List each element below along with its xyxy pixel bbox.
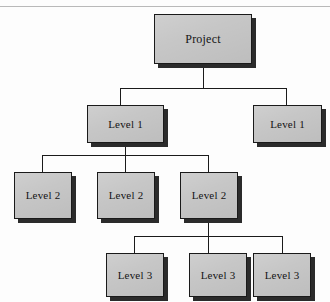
connector-l2a-drop xyxy=(42,155,43,172)
node-l3a[interactable]: Level 3 xyxy=(106,253,164,297)
connector-l1b-drop xyxy=(286,88,287,105)
connector-l2b-drop xyxy=(125,155,126,172)
node-label: Level 2 xyxy=(192,190,227,201)
connector-root-stem xyxy=(203,64,204,88)
connector-l1a-drop xyxy=(120,88,121,105)
node-root[interactable]: Project xyxy=(154,14,252,64)
node-l3b[interactable]: Level 3 xyxy=(189,253,247,297)
connector-l1-bus xyxy=(120,88,286,89)
connector-l3c-drop xyxy=(282,236,283,253)
node-label: Level 3 xyxy=(118,270,153,281)
connector-l3a-drop xyxy=(134,236,135,253)
node-label: Level 1 xyxy=(270,119,305,130)
node-label: Level 2 xyxy=(26,190,61,201)
connector-l3b-drop xyxy=(208,236,209,253)
node-l2c[interactable]: Level 2 xyxy=(180,172,238,219)
node-l2a[interactable]: Level 2 xyxy=(14,172,72,219)
node-label: Level 1 xyxy=(108,119,143,130)
node-l2b[interactable]: Level 2 xyxy=(97,172,155,219)
scan-artifact-line xyxy=(0,6,330,7)
wbs-tree-diagram: ProjectLevel 1Level 1Level 2Level 2Level… xyxy=(0,0,330,302)
node-label: Level 3 xyxy=(265,270,300,281)
node-label: Level 3 xyxy=(201,270,236,281)
connector-l2c-stem xyxy=(208,219,209,236)
node-l1b[interactable]: Level 1 xyxy=(253,105,322,143)
connector-l2c-drop xyxy=(208,155,209,172)
node-l1a[interactable]: Level 1 xyxy=(87,105,164,143)
connector-l1a-stem xyxy=(125,143,126,155)
node-label: Level 2 xyxy=(109,190,144,201)
node-l3c[interactable]: Level 3 xyxy=(253,253,311,297)
node-label: Project xyxy=(185,33,220,45)
